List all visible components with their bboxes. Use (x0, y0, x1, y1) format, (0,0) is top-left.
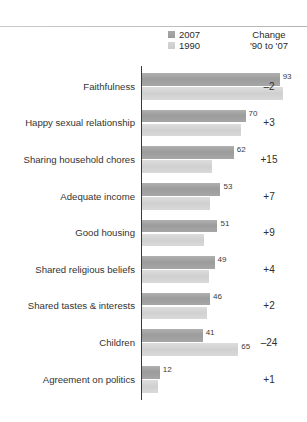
chart-row: Children4165–24 (0, 324, 307, 361)
bar-1990 (142, 343, 238, 356)
change-value: +9 (232, 214, 306, 251)
chart-rows: Faithfulness93–2Happy sexual relationshi… (0, 68, 307, 397)
change-column-header: Change '90 to '07 (232, 29, 306, 51)
bar-value-label: 49 (215, 255, 227, 264)
top-divider (0, 26, 307, 27)
grouped-bar-chart: 2007 1990 Change '90 to '07 Faithfulness… (0, 0, 307, 422)
change-value: +4 (232, 251, 306, 288)
bar-2007 (142, 183, 220, 196)
legend-item-2007: 2007 (168, 29, 224, 40)
bar-2007 (142, 293, 210, 306)
change-value: +3 (232, 105, 306, 142)
bar-value-label: 53 (220, 182, 232, 191)
category-label: Children (99, 324, 135, 361)
bar-value-label: 46 (210, 292, 222, 301)
chart-row: Adequate income53+7 (0, 178, 307, 215)
square-swatch-icon (168, 42, 175, 49)
bar-1990 (142, 160, 212, 173)
chart-row: Faithfulness93–2 (0, 68, 307, 105)
chart-row: Agreement on politics12+1 (0, 361, 307, 398)
legend-label-2007: 2007 (179, 29, 200, 40)
change-value: +7 (232, 178, 306, 215)
bar-value-label: 41 (203, 328, 215, 337)
change-value: +2 (232, 288, 306, 325)
bar-1990 (142, 234, 204, 247)
category-label: Shared tastes & interests (28, 288, 135, 325)
change-header-line-2: '90 to '07 (232, 40, 306, 51)
legend: 2007 1990 (168, 29, 224, 51)
category-label: Happy sexual relationship (25, 105, 135, 142)
change-value: +15 (232, 141, 306, 178)
chart-row: Good housing51+9 (0, 214, 307, 251)
bar-1990 (142, 380, 158, 393)
bar-value-label: 12 (160, 365, 172, 374)
chart-row: Happy sexual relationship70+3 (0, 105, 307, 142)
bar-1990 (142, 270, 209, 283)
category-label: Sharing household chores (24, 141, 135, 178)
bar-2007 (142, 146, 234, 159)
legend-item-1990: 1990 (168, 40, 224, 51)
category-label: Shared religious beliefs (35, 251, 135, 288)
chart-row: Shared tastes & interests46+2 (0, 288, 307, 325)
bar-2007 (142, 366, 160, 379)
square-swatch-icon (168, 31, 175, 38)
legend-label-1990: 1990 (179, 40, 200, 51)
bar-2007 (142, 110, 246, 123)
change-value: –2 (232, 68, 306, 105)
bar-2007 (142, 220, 217, 233)
category-label: Agreement on politics (43, 361, 135, 398)
category-label: Faithfulness (83, 68, 135, 105)
change-header-line-1: Change (232, 29, 306, 40)
bar-1990 (142, 197, 210, 210)
bar-1990 (142, 124, 241, 137)
change-value: +1 (232, 361, 306, 398)
bar-value-label: 51 (217, 219, 229, 228)
change-value: –24 (232, 324, 306, 361)
chart-row: Shared religious beliefs49+4 (0, 251, 307, 288)
bar-1990 (142, 307, 207, 320)
category-label: Adequate income (60, 178, 135, 215)
chart-row: Sharing household chores62+15 (0, 141, 307, 178)
bar-2007 (142, 329, 203, 342)
category-label: Good housing (75, 214, 135, 251)
bar-2007 (142, 256, 215, 269)
